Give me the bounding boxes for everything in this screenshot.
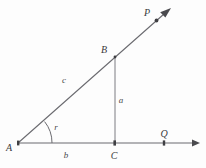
label-point-Q: Q (160, 128, 168, 139)
label-angle-r: r (54, 122, 58, 132)
label-point-C: C (111, 150, 118, 161)
baseline-arrowhead-icon (192, 139, 200, 146)
label-point-B: B (101, 44, 107, 55)
label-point-P: P (143, 7, 150, 18)
point-marker-B (114, 56, 117, 59)
angle-arc-r (45, 122, 52, 143)
geometry-diagram: A B C P Q c a b r (0, 0, 206, 168)
label-side-a: a (119, 95, 124, 105)
point-marker-Q (163, 140, 165, 145)
point-marker-C (113, 140, 116, 145)
geometry-canvas: A B C P Q c a b r (0, 0, 206, 168)
point-marker-P (155, 19, 159, 23)
point-marker-A (17, 141, 19, 146)
label-side-c: c (62, 75, 66, 85)
diagonal-ray-AP (18, 14, 164, 143)
label-side-b: b (64, 150, 69, 160)
label-point-A: A (5, 142, 13, 153)
